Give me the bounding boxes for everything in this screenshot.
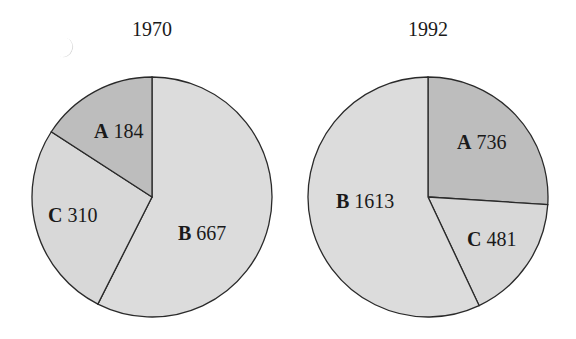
label-1992-b: B 1613 [336,190,394,212]
label-1970-c: C 310 [48,204,97,226]
label-1970-a: A 184 [94,120,143,142]
label-1970-b: B 667 [178,222,226,244]
label-1992-a: A 736 [457,131,506,153]
pie-1970 [32,77,272,317]
pie-charts: A 184 B 667 C 310 A 736 B 1613 C 481 [0,0,576,339]
label-1992-c: C 481 [467,228,516,250]
